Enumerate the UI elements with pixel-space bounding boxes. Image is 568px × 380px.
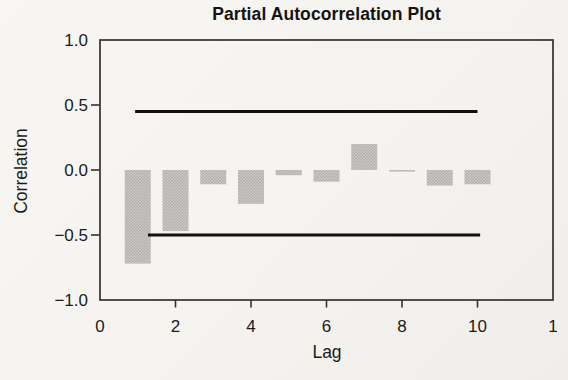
y-tick-label: −0.5 [54,226,88,245]
y-tick-label: 1.0 [64,31,88,50]
pacf-bar-lag-9 [427,170,453,186]
x-tick-label: 0 [95,317,104,336]
x-tick-label: 8 [397,317,406,336]
pacf-bar-lag-10 [465,170,491,184]
x-tick-label: 1 [548,317,557,336]
pacf-bar-lag-4 [238,170,264,204]
y-tick-label: −1.0 [54,291,88,310]
pacf-bar-lag-2 [163,170,189,231]
x-tick-label: 6 [322,317,331,336]
pacf-bar-lag-8 [389,170,415,172]
x-axis-label: Lag [312,342,341,363]
pacf-bar-lag-6 [314,170,340,182]
x-tick-label: 2 [171,317,180,336]
pacf-bar-lag-5 [276,170,302,175]
pacf-bar-lag-7 [351,144,377,170]
y-tick-label: 0.5 [64,96,88,115]
y-tick-label: 0.0 [64,161,88,180]
scanned-chart-page: Partial Autocorrelation Plot Correlation… [0,0,568,380]
x-tick-label: 4 [246,317,255,336]
x-tick-label: 10 [468,317,487,336]
pacf-bar-lag-1 [125,170,151,264]
plot-area: 1.00.50.0−0.5−1.002468101 [0,0,568,380]
pacf-bar-lag-3 [200,170,226,184]
